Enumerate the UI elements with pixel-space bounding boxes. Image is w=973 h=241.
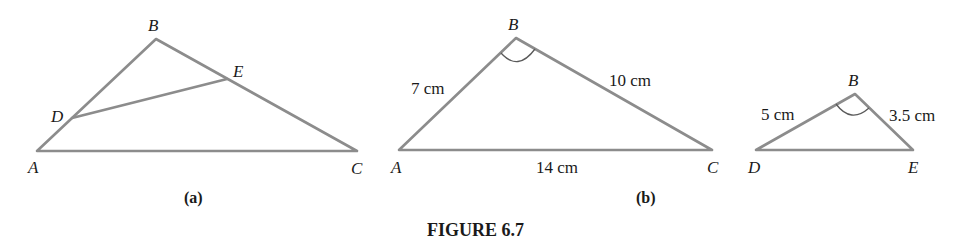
vertex-label-e: E (232, 62, 244, 81)
measure-ab: 7 cm (411, 79, 445, 98)
vertex-label-d: D (50, 107, 64, 126)
vertex-label-c: C (351, 159, 363, 178)
segment-de (72, 79, 227, 118)
vertex-label-a: A (390, 158, 402, 177)
vertex-label-d: D (747, 158, 761, 177)
vertex-label-e: E (907, 158, 919, 177)
measure-be: 3.5 cm (889, 106, 935, 125)
sublabel-b: (b) (636, 189, 656, 207)
angle-arc-b (501, 49, 535, 62)
vertex-label-a: A (27, 158, 39, 177)
measure-db: 5 cm (761, 105, 795, 124)
sublabel-a: (a) (184, 189, 203, 207)
vertex-label-b: B (848, 71, 859, 90)
vertex-label-b: B (148, 16, 159, 35)
figure-a: B E D A C (a) (27, 16, 363, 207)
angle-arc-b-small (836, 104, 869, 115)
vertex-label-b: B (508, 15, 519, 34)
vertex-label-c: C (707, 158, 719, 177)
measure-ac: 14 cm (536, 158, 578, 177)
figure-canvas: B E D A C (a) B A C 7 cm 10 cm 14 cm (b)… (0, 0, 973, 241)
figure-caption: FIGURE 6.7 (427, 220, 524, 240)
figure-b-small: B D E 5 cm 3.5 cm (747, 71, 935, 177)
measure-bc: 10 cm (609, 71, 651, 90)
triangle-abc (37, 39, 357, 151)
triangle-abc-b (399, 38, 712, 150)
figure-b: B A C 7 cm 10 cm 14 cm (b) (390, 15, 719, 207)
